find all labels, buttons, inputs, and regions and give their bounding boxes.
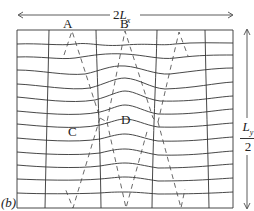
height-label: Ly 2 — [240, 119, 254, 155]
point-label-a: A — [63, 17, 72, 30]
height-label-var: L — [243, 119, 250, 134]
panel-label: (b) — [1, 196, 16, 209]
diagram: A B C D 2Lx Ly 2 (b) — [0, 0, 254, 211]
width-label-var: L — [120, 7, 127, 22]
point-label-d: D — [121, 113, 130, 126]
width-label: 2Lx — [113, 8, 130, 25]
height-label-denominator: 2 — [240, 139, 254, 155]
point-label-c: C — [68, 125, 77, 138]
width-label-sub: x — [127, 16, 131, 25]
deformed-grid-diagram — [0, 0, 254, 211]
height-label-sub: y — [250, 128, 254, 137]
